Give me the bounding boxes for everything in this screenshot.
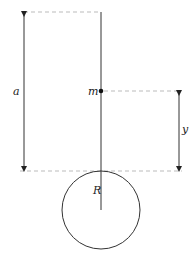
- label-m: m: [88, 85, 98, 98]
- mass-point: [99, 89, 104, 94]
- label-y: y: [181, 123, 189, 136]
- label-a: a: [13, 85, 20, 98]
- label-R: R: [92, 184, 101, 197]
- gravity-diagram: a m y R: [0, 0, 190, 261]
